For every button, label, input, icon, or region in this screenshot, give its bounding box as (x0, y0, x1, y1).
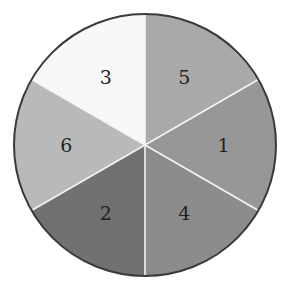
wedge-label-4: 4 (178, 202, 190, 224)
wedge-label-1: 1 (218, 134, 230, 156)
wedge-label-2: 2 (100, 202, 112, 224)
six-wedge-circle-diagram: 5 1 4 2 6 3 (0, 0, 290, 283)
wedge-label-5: 5 (178, 66, 190, 88)
wedge-label-6: 6 (60, 134, 72, 156)
wedge-label-3: 3 (100, 66, 112, 88)
